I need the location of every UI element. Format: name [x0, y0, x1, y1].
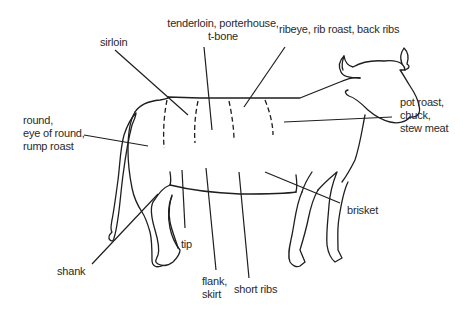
leader-tenderloin [204, 47, 212, 130]
leader-tip [182, 170, 185, 228]
label-tip: tip [181, 238, 192, 251]
leader-sirloin [115, 50, 188, 115]
leader-chuck [284, 117, 392, 122]
leader-flank [206, 168, 216, 270]
label-brisket: brisket [347, 204, 378, 217]
label-shank: shank [57, 265, 85, 278]
label-round: round, eye of round, rump roast [23, 114, 85, 153]
leader-lines [84, 47, 392, 278]
label-ribeye: ribeye, rib roast, back ribs [279, 23, 399, 36]
cow-outline [109, 48, 420, 267]
leader-short-ribs [239, 172, 249, 278]
label-flank: flank, skirt [202, 275, 227, 301]
label-sirloin: sirloin [100, 36, 127, 49]
label-tenderloin: tenderloin, porterhouse, t-bone [158, 17, 288, 43]
leader-brisket [265, 172, 340, 203]
leader-shank [92, 194, 158, 264]
label-chuck: pot roast, chuck, stew meat [400, 96, 448, 135]
leader-round [84, 135, 148, 146]
label-short-ribs: short ribs [234, 283, 277, 296]
